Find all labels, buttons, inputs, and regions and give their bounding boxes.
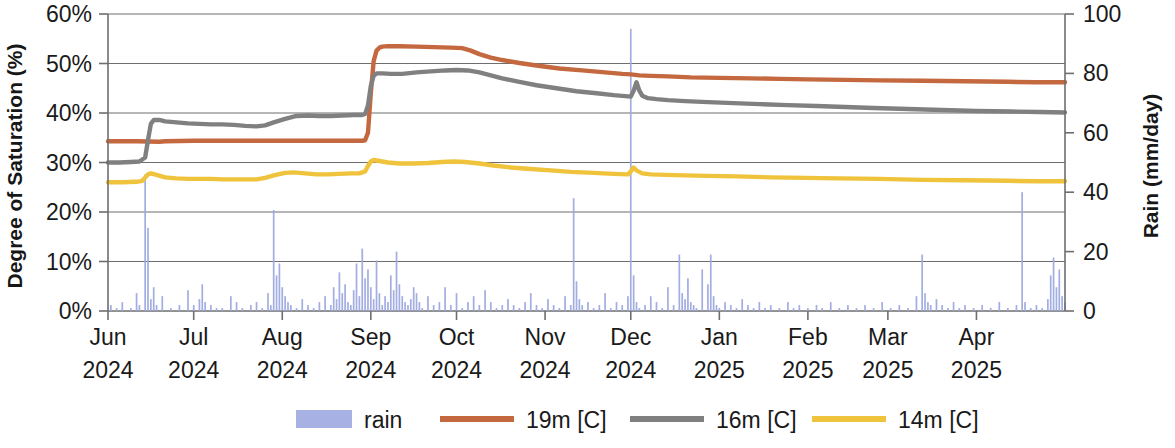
rain-bar <box>656 302 658 311</box>
rain-bar <box>921 255 923 311</box>
left-tick-label: 20% <box>46 199 92 225</box>
rain-bar <box>864 305 866 311</box>
rain-bar <box>121 302 123 311</box>
rain-bar <box>319 302 321 311</box>
rain-bar <box>973 308 975 311</box>
rain-bar <box>116 308 118 311</box>
left-tick-label: 10% <box>46 249 92 275</box>
rain-bar <box>798 305 800 311</box>
x-tick-year: 2024 <box>345 357 396 383</box>
rain-bar <box>144 174 146 311</box>
rain-bar <box>573 198 575 311</box>
rain-bar <box>347 302 349 311</box>
x-tick-year: 2025 <box>951 357 1002 383</box>
rain-bar <box>364 278 366 311</box>
rain-bar <box>856 308 858 311</box>
rain-bar <box>947 308 949 311</box>
rain-bar <box>1047 299 1049 311</box>
right-axis-title-text: Rain (mm/day) <box>1139 94 1162 239</box>
rain-bar <box>1050 275 1052 311</box>
rain-bar <box>553 305 555 311</box>
rain-bar <box>730 305 732 311</box>
rain-bar <box>998 302 1000 311</box>
rain-bar <box>816 305 818 311</box>
rain-bar <box>1016 305 1018 311</box>
rain-bar <box>650 296 652 311</box>
x-tick-month: Jan <box>701 324 738 350</box>
rain-bar <box>547 299 549 311</box>
rain-bar <box>330 305 332 311</box>
legend-label: 19m [C] <box>526 407 607 433</box>
rain-bar <box>1007 308 1009 311</box>
rain-bar <box>387 302 389 311</box>
rain-bar <box>450 305 452 311</box>
rain-bar <box>221 308 223 311</box>
right-tick-label: 40 <box>1083 179 1109 205</box>
x-tick-year: 2024 <box>605 357 656 383</box>
rain-bar <box>890 308 892 311</box>
rain-bar <box>201 284 203 311</box>
rain-bar <box>153 287 155 311</box>
rain-bar <box>621 305 623 311</box>
rain-bar <box>564 296 566 311</box>
rain-bar <box>136 293 138 311</box>
rain-bar <box>778 308 780 311</box>
rain-bar <box>559 308 561 311</box>
legend-label: rain <box>364 407 402 433</box>
x-tick-month: Jul <box>179 324 208 350</box>
rain-bar <box>1053 258 1055 311</box>
rain-bar <box>290 305 292 311</box>
rain-bar <box>710 255 712 311</box>
rain-bar <box>639 308 641 311</box>
rain-bar <box>179 305 181 311</box>
rain-bar <box>296 308 298 311</box>
x-tick-year: 2024 <box>168 357 219 383</box>
rain-bar <box>439 302 441 311</box>
rain-bar <box>924 293 926 311</box>
rain-bar <box>684 299 686 311</box>
rain-bar <box>204 302 206 311</box>
rain-bar <box>610 308 612 311</box>
rain-bar <box>287 302 289 311</box>
rain-bar <box>416 293 418 311</box>
rain-bar <box>927 302 929 311</box>
rain-bar <box>661 308 663 311</box>
legend-label: 14m [C] <box>898 407 979 433</box>
rain-bar <box>216 308 218 311</box>
degree-of-saturation-rain-chart: Degree of Saturation (%) Rain (mm/day) 6… <box>0 0 1175 448</box>
rain-bar <box>501 305 503 311</box>
rain-bar <box>350 305 352 311</box>
x-tick-year: 2024 <box>431 357 482 383</box>
left-tick-label: 40% <box>46 100 92 126</box>
rain-bar <box>507 299 509 311</box>
rain-bar <box>210 305 212 311</box>
rain-bar <box>427 296 429 311</box>
rain-bar <box>958 308 960 311</box>
rain-bar <box>333 287 335 311</box>
rain-bar <box>747 305 749 311</box>
rain-bar <box>1030 308 1032 311</box>
rain-bar <box>279 263 281 311</box>
rain-bar <box>941 305 943 311</box>
rain-bar <box>421 308 423 311</box>
rain-bar <box>359 296 361 311</box>
rain-bar <box>519 308 521 311</box>
rain-bar <box>1036 305 1038 311</box>
rain-bar <box>261 308 263 311</box>
x-tick-month: Oct <box>439 324 475 350</box>
rain-bar <box>187 290 189 311</box>
rain-bar <box>410 299 412 311</box>
rain-bar <box>407 305 409 311</box>
rain-bar <box>981 305 983 311</box>
rain-bar <box>170 308 172 311</box>
rain-bar <box>690 302 692 311</box>
rain-bar <box>473 296 475 311</box>
rain-bar <box>667 287 669 311</box>
rain-bar <box>373 299 375 311</box>
rain-bar <box>793 308 795 311</box>
rain-bar <box>256 302 258 311</box>
rain-bar <box>379 293 381 311</box>
x-tick-month: Dec <box>610 324 651 350</box>
rain-bar <box>393 290 395 311</box>
rain-bar <box>1056 287 1058 311</box>
